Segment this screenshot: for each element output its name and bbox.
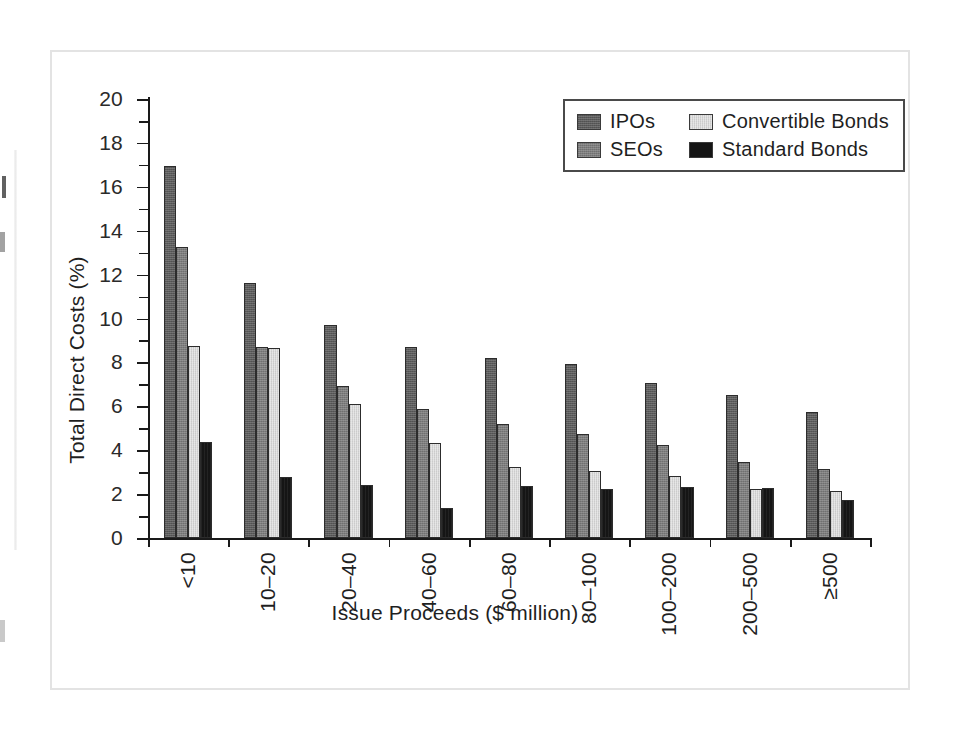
bar-standard-bonds: [200, 442, 212, 538]
y-axis-tick: [139, 253, 148, 255]
bar-standard-bonds: [280, 477, 292, 538]
legend-swatch-icon: [577, 114, 601, 130]
x-axis-category-label: ≥500: [818, 552, 842, 600]
legend-item-convertible-bonds[interactable]: Convertible Bonds: [689, 110, 889, 133]
y-axis-tick: 0: [137, 538, 148, 540]
legend-label: SEOs: [610, 138, 663, 161]
bar-standard-bonds: [601, 489, 613, 538]
y-axis-tick-label: 10: [99, 306, 123, 330]
legend-label: IPOs: [610, 110, 655, 133]
legend-swatch-icon: [577, 142, 601, 158]
bar-seos: [256, 347, 268, 538]
y-axis-title-text: Total Direct Costs (%): [65, 256, 89, 463]
x-axis-tick: [790, 538, 792, 547]
y-axis-tick: 4: [137, 450, 148, 452]
legend-swatch-icon: [689, 114, 713, 130]
x-axis-tick: [629, 538, 631, 547]
y-axis-tick: 10: [137, 319, 148, 321]
x-axis-tick: [870, 538, 872, 547]
y-axis-tick-label: 4: [111, 438, 123, 462]
legend-label: Standard Bonds: [722, 138, 868, 161]
bar-standard-bonds: [681, 487, 693, 538]
bar-standard-bonds: [521, 486, 533, 538]
y-axis-title: Total Direct Costs (%): [62, 180, 92, 540]
y-axis-tick: 16: [137, 187, 148, 189]
y-axis-tick-label: 16: [99, 174, 123, 198]
scan-margin-mark-top: [2, 176, 6, 198]
x-axis-title: Issue Proceeds ($ million): [0, 601, 910, 625]
bar-convertible-bonds: [750, 489, 762, 538]
y-axis-tick-label: 12: [99, 262, 123, 286]
bar-convertible-bonds: [509, 467, 521, 538]
y-axis-tick-label: 18: [99, 130, 123, 154]
x-axis-tick: [469, 538, 471, 547]
y-axis-tick: [139, 209, 148, 211]
scan-page-edge: [14, 150, 17, 550]
chart-legend: IPOsConvertible BondsSEOsStandard Bonds: [563, 99, 905, 172]
y-axis-tick: 18: [137, 143, 148, 145]
bar-seos: [497, 424, 509, 538]
bar-ipos: [405, 347, 417, 538]
bar-standard-bonds: [842, 500, 854, 538]
scan-margin-mark-mid: [0, 232, 5, 252]
legend-label: Convertible Bonds: [722, 110, 889, 133]
bar-convertible-bonds: [589, 471, 601, 538]
x-axis-tick: [308, 538, 310, 547]
y-axis-tick-label: 2: [111, 482, 123, 506]
y-axis-tick: [139, 297, 148, 299]
y-axis-tick: [139, 121, 148, 123]
y-axis-tick: [139, 384, 148, 386]
bar-seos: [577, 434, 589, 538]
legend-item-seos[interactable]: SEOs: [577, 138, 663, 161]
y-axis-tick-label: 0: [111, 526, 123, 550]
y-axis-tick: 14: [137, 231, 148, 233]
bar-ipos: [806, 412, 818, 538]
bar-convertible-bonds: [669, 476, 681, 538]
x-axis-category-label: <10: [176, 552, 200, 589]
y-axis-tick: 6: [137, 406, 148, 408]
legend-item-ipos[interactable]: IPOs: [577, 110, 663, 133]
bar-ipos: [565, 364, 577, 538]
bar-ipos: [164, 166, 176, 538]
x-axis-tick: [549, 538, 551, 547]
x-axis-tick: [148, 538, 150, 547]
x-axis-tick: [228, 538, 230, 547]
bar-convertible-bonds: [188, 346, 200, 538]
bar-seos: [417, 409, 429, 538]
y-axis-tick: [139, 472, 148, 474]
x-axis-tick: [389, 538, 391, 547]
bar-ipos: [324, 325, 336, 538]
chart-page: Total Direct Costs (%) 02468101214161820…: [0, 0, 958, 742]
x-axis-tick: [710, 538, 712, 547]
bar-seos: [337, 386, 349, 538]
y-axis-tick: [139, 165, 148, 167]
bar-seos: [176, 247, 188, 538]
y-axis-tick-label: 6: [111, 394, 123, 418]
y-axis-tick-label: 14: [99, 218, 123, 242]
bar-convertible-bonds: [830, 491, 842, 538]
legend-item-standard-bonds[interactable]: Standard Bonds: [689, 138, 889, 161]
y-axis-tick: [139, 428, 148, 430]
y-axis-tick: 8: [137, 362, 148, 364]
bar-ipos: [645, 383, 657, 538]
bar-seos: [657, 445, 669, 538]
bar-convertible-bonds: [429, 443, 441, 538]
bar-convertible-bonds: [268, 348, 280, 538]
y-axis-tick-label: 20: [99, 87, 123, 111]
legend-swatch-icon: [689, 142, 713, 158]
y-axis-tick: [139, 516, 148, 518]
bar-seos: [738, 462, 750, 538]
y-axis-tick: [139, 340, 148, 342]
bar-ipos: [726, 395, 738, 538]
bar-standard-bonds: [762, 488, 774, 538]
bar-standard-bonds: [361, 485, 373, 538]
bar-ipos: [244, 283, 256, 538]
bar-standard-bonds: [441, 508, 453, 538]
bar-seos: [818, 469, 830, 538]
y-axis-tick-label: 8: [111, 350, 123, 374]
bar-convertible-bonds: [349, 404, 361, 538]
y-axis-tick: 12: [137, 275, 148, 277]
y-axis-tick: 2: [137, 494, 148, 496]
bar-ipos: [485, 358, 497, 538]
x-axis-line: [148, 538, 872, 540]
